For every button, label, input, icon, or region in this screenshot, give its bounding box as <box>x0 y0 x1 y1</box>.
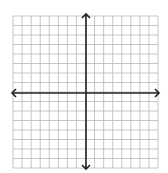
axes <box>12 14 159 169</box>
coordinate-plane <box>0 0 168 173</box>
